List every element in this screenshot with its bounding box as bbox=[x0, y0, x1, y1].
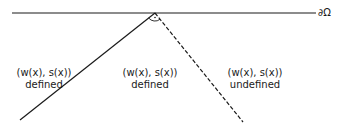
diagram-canvas bbox=[0, 0, 342, 125]
region-label-middle: (w(x), s(x)) defined bbox=[123, 67, 178, 91]
boundary-label: ∂Ω bbox=[318, 7, 331, 19]
region-right-pair: (w(x), s(x)) bbox=[228, 67, 283, 79]
region-label-right: (w(x), s(x)) undefined bbox=[228, 67, 283, 91]
region-left-pair: (w(x), s(x)) bbox=[17, 67, 72, 79]
region-right-status: undefined bbox=[228, 79, 283, 91]
region-label-left: (w(x), s(x)) defined bbox=[17, 67, 72, 91]
angle-arc-marker bbox=[149, 18, 160, 21]
angle-dot-marker bbox=[154, 17, 156, 19]
region-left-status: defined bbox=[17, 79, 72, 91]
region-middle-pair: (w(x), s(x)) bbox=[123, 67, 178, 79]
region-middle-status: defined bbox=[123, 79, 178, 91]
